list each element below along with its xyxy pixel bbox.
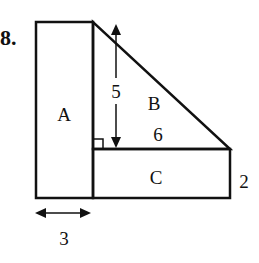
label-region-a: A: [57, 104, 71, 125]
label-region-b: B: [148, 93, 161, 114]
right-angle-marker: [93, 139, 103, 149]
arrow-left-icon: [35, 208, 46, 218]
label-height-5: 5: [111, 81, 121, 102]
label-base-6: 6: [153, 124, 163, 145]
composite-figure: 8. 5 3 A B 6 C 2: [0, 0, 259, 263]
arrow-right-icon: [80, 208, 91, 218]
arrow-down-icon: [111, 137, 121, 148]
label-height-2: 2: [239, 171, 249, 192]
label-width-3: 3: [59, 228, 69, 249]
problem-number: 8.: [0, 25, 17, 50]
label-region-c: C: [150, 167, 163, 188]
arrow-up-icon: [111, 24, 121, 35]
